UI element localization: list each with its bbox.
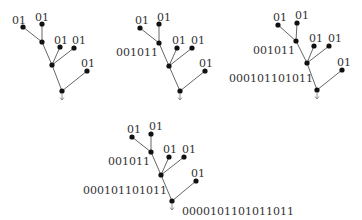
trees-group: 0101010101010100101101010101010010110101… (12, 9, 351, 218)
node-label: 01 (295, 9, 309, 22)
node-label: 01 (199, 57, 213, 70)
node-label: 001011 (116, 46, 158, 59)
tree-edge (161, 157, 184, 175)
node-label: 01 (191, 167, 205, 180)
tree-node (156, 40, 161, 45)
tree-node (59, 88, 64, 93)
tree-edge (169, 48, 192, 66)
tree-node (158, 172, 163, 177)
tree-edge (151, 152, 161, 175)
tree-node (293, 38, 298, 43)
node-label: 000101101011 (229, 72, 313, 85)
tree-edge (52, 65, 62, 91)
tree-edge (140, 28, 159, 43)
node-label: 001011 (253, 44, 295, 57)
tree-node (148, 149, 153, 154)
tree-edge (278, 25, 296, 41)
tree-edge (172, 181, 196, 201)
node-label: 01 (12, 14, 26, 27)
node-label: 01 (172, 34, 186, 47)
node-label: 01 (337, 56, 351, 69)
tree-edge (296, 23, 297, 41)
node-label: 01 (182, 143, 196, 156)
tree-edge (132, 137, 151, 152)
tree-edge (180, 71, 205, 91)
node-label: 01 (163, 143, 177, 156)
node-label: 01 (54, 34, 68, 47)
tree-edge (296, 41, 307, 63)
root-arrow-icon (315, 93, 319, 99)
node-label: 01 (149, 120, 163, 133)
node-label: 0000101101011011 (182, 205, 294, 218)
root-arrow-icon (170, 204, 174, 210)
tree-1: 0101010101 (12, 11, 95, 100)
node-label: 01 (35, 11, 49, 24)
root-arrow-icon (60, 94, 64, 100)
node-label: 01 (157, 11, 171, 24)
tree-node (39, 39, 44, 44)
tree-3: 0101001011010100010110101101 (229, 9, 351, 99)
tree-edge (159, 43, 169, 66)
tree-diagram: 0101010101010100101101010101010010110101… (0, 0, 362, 220)
tree-node (177, 88, 182, 93)
tree-node (314, 87, 319, 92)
node-label: 01 (273, 11, 287, 24)
root-arrow-icon (178, 94, 182, 100)
node-label: 01 (135, 14, 149, 27)
node-label: 01 (328, 32, 342, 45)
tree-edge (169, 66, 180, 91)
node-label: 01 (72, 34, 86, 47)
tree-edge (23, 27, 42, 42)
tree-node (304, 60, 309, 65)
tree-node (169, 198, 174, 203)
tree-4: 0101001011010100010110101101000010110101… (83, 120, 294, 218)
tree-edge (62, 71, 87, 91)
tree-edge (317, 70, 342, 90)
tree-edge (42, 42, 52, 65)
tree-2: 0101001011010101 (116, 11, 213, 100)
node-label: 001011 (108, 155, 150, 168)
tree-node (166, 63, 171, 68)
node-label: 000101101011 (83, 184, 167, 197)
node-label: 01 (81, 57, 95, 70)
node-label: 01 (127, 123, 141, 136)
node-label: 01 (191, 34, 205, 47)
tree-node (49, 62, 54, 67)
node-label: 01 (309, 32, 323, 45)
